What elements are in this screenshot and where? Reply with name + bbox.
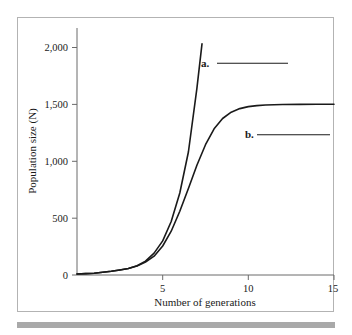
y-tick-label-1000: 1,000 (44, 156, 68, 167)
x-axis-title: Number of generations (154, 296, 255, 308)
x-tick-label-10: 10 (243, 283, 254, 294)
x-tick-label-15: 15 (328, 283, 339, 294)
chart-canvas: 2,000 1,500 1,000 500 0 5 10 15 Number o… (0, 0, 352, 335)
curve-label-a: a. (201, 57, 210, 69)
curve-logistic-b (77, 104, 334, 274)
curve-label-b: b. (245, 128, 254, 140)
y-tick-label-500: 500 (52, 213, 68, 224)
y-tick-label-2000: 2,000 (44, 42, 68, 53)
x-tick-label-5: 5 (160, 283, 165, 294)
y-axis-title: Population size (N) (26, 108, 39, 194)
population-growth-figure: 2,000 1,500 1,000 500 0 5 10 15 Number o… (0, 0, 352, 335)
y-tick-label-1500: 1,500 (44, 99, 68, 110)
figure-accent-bar (17, 322, 335, 328)
y-tick-label-0: 0 (63, 270, 68, 281)
curve-exponential-a (77, 44, 202, 274)
